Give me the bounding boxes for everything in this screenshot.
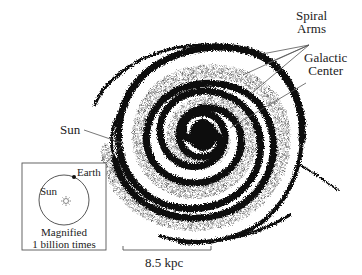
inset-caption-line2: 1 billion times bbox=[24, 238, 104, 250]
galactic-core bbox=[189, 119, 217, 151]
inset-sun-label: Sun bbox=[40, 185, 57, 197]
galactic-center-label: Galactic Center bbox=[304, 51, 347, 77]
spiral-arms-label: Spiral Arms bbox=[296, 9, 327, 35]
scale-bar-label: 8.5 kpc bbox=[145, 256, 183, 269]
inset-caption: Magnified 1 billion times bbox=[24, 226, 104, 250]
spiral-galaxy bbox=[95, 45, 338, 243]
inset-caption-line1: Magnified bbox=[24, 226, 104, 238]
inset-earth-label: Earth bbox=[77, 166, 101, 178]
earth-dot-icon bbox=[72, 175, 76, 179]
sun-label: Sun bbox=[60, 123, 80, 136]
spiral-arms-label-line2: Arms bbox=[296, 22, 327, 35]
galactic-center-label-line2: Center bbox=[304, 64, 347, 77]
scale-bar bbox=[123, 246, 211, 250]
